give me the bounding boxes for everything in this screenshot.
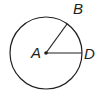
- label-b: B: [73, 0, 83, 17]
- label-a: A: [30, 44, 41, 61]
- label-d: D: [84, 45, 95, 62]
- center-point-a: [44, 51, 48, 55]
- circle-diagram: A B D: [0, 0, 101, 93]
- radius-ab: [46, 24, 67, 53]
